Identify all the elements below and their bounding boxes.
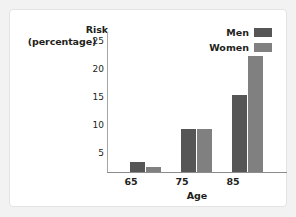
y-tick-label: 5 xyxy=(80,148,104,158)
x-tick-label-85: 85 xyxy=(213,176,253,187)
x-axis-title: Age xyxy=(107,190,287,201)
bar-women-75 xyxy=(197,129,212,172)
bar-men-65 xyxy=(130,162,145,172)
x-tick-label-75: 75 xyxy=(162,176,202,187)
bar-men-75 xyxy=(181,129,196,172)
y-tick-label: 25 xyxy=(80,36,104,46)
y-axis-ticks: 25 20 15 10 5 xyxy=(76,32,104,172)
bar-men-85 xyxy=(232,95,247,172)
y-tick-label: 10 xyxy=(80,120,104,130)
bar-women-85 xyxy=(248,56,263,172)
bar-plot-area xyxy=(108,32,287,172)
chart-screenshot: Risk (percentage) Men Women 25 20 15 10 … xyxy=(0,0,296,217)
y-tick-label: 15 xyxy=(80,92,104,102)
chart-panel: Risk (percentage) Men Women 25 20 15 10 … xyxy=(9,9,287,207)
x-axis-line xyxy=(107,172,287,173)
y-tick-label: 20 xyxy=(80,64,104,74)
x-tick-label-65: 65 xyxy=(111,176,151,187)
bar-women-65 xyxy=(146,167,161,172)
